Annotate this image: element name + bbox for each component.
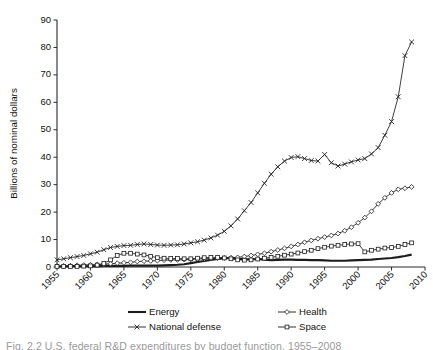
data-marker — [389, 119, 394, 124]
data-marker — [249, 253, 254, 258]
data-marker — [329, 160, 334, 165]
data-marker — [222, 229, 227, 234]
data-marker — [255, 252, 260, 257]
legend-item-energy[interactable]: Energy — [128, 306, 180, 317]
x-axis-tick-label: 1980 — [206, 269, 229, 292]
x-axis-tick-label: 1960 — [72, 269, 95, 292]
data-marker — [242, 208, 247, 213]
data-marker — [142, 253, 146, 257]
data-marker — [122, 251, 126, 255]
data-marker — [75, 265, 79, 269]
data-marker — [316, 247, 320, 251]
y-axis-tick-label: 50 — [40, 123, 51, 134]
data-marker — [202, 256, 206, 260]
x-axis-tick-label: 1970 — [139, 269, 162, 292]
x-axis-tick-label: 1985 — [239, 269, 262, 292]
data-marker — [336, 231, 341, 236]
data-marker — [249, 200, 254, 205]
data-marker — [350, 242, 354, 246]
data-marker — [249, 258, 253, 262]
data-marker — [376, 247, 380, 251]
data-marker — [282, 246, 287, 251]
data-marker — [129, 251, 133, 255]
data-marker — [369, 152, 374, 157]
legend-item-health[interactable]: Health — [278, 306, 327, 317]
legend-label: Energy — [149, 306, 180, 317]
data-marker — [410, 241, 414, 245]
data-marker — [276, 254, 280, 258]
data-marker — [169, 257, 173, 261]
y-axis-tick-label: 40 — [40, 151, 51, 162]
series-health — [55, 184, 414, 268]
data-marker — [343, 243, 347, 247]
data-marker — [255, 191, 260, 196]
data-marker — [62, 265, 66, 269]
data-marker — [135, 252, 139, 256]
data-marker — [302, 156, 307, 161]
data-marker — [68, 265, 72, 269]
data-marker — [283, 253, 287, 257]
data-marker — [296, 251, 300, 255]
data-marker — [115, 254, 119, 258]
legend-label: Health — [299, 306, 327, 317]
y-axis-title: Billions of nominal dollars — [8, 88, 19, 199]
chart-axes — [57, 20, 425, 267]
data-marker — [216, 255, 220, 259]
data-marker — [409, 40, 414, 45]
data-marker — [396, 187, 401, 192]
x-axis-tick-label: 1975 — [173, 269, 196, 292]
data-marker — [390, 246, 394, 250]
y-axis-tick-label: 0 — [46, 261, 51, 272]
data-marker — [356, 242, 360, 246]
data-marker — [229, 257, 233, 261]
data-marker — [208, 236, 213, 241]
figure-caption-text: Fig. 2.2 U.S. federal R&D expenditures b… — [6, 341, 426, 350]
data-marker — [263, 256, 267, 260]
y-axis-tick-label: 90 — [40, 14, 51, 25]
data-marker — [323, 245, 327, 249]
data-marker — [222, 256, 226, 260]
data-marker — [115, 261, 120, 266]
data-marker — [275, 164, 280, 169]
data-marker — [155, 256, 159, 260]
data-marker — [383, 246, 387, 250]
data-marker — [329, 233, 334, 238]
data-marker — [295, 242, 300, 247]
data-marker — [269, 249, 274, 254]
data-marker — [403, 243, 407, 247]
data-marker — [269, 172, 274, 177]
x-axis-tick-label: 2000 — [340, 269, 363, 292]
data-marker — [209, 255, 213, 259]
data-marker — [316, 236, 321, 241]
data-marker — [403, 186, 408, 191]
data-marker — [285, 325, 289, 329]
y-axis-tick-label: 80 — [40, 41, 51, 52]
legend-label: Space — [299, 321, 326, 332]
data-marker — [196, 256, 200, 260]
data-marker — [349, 225, 354, 230]
data-marker — [382, 133, 387, 138]
data-marker — [236, 258, 240, 262]
data-marker — [162, 256, 166, 260]
legend-item-space[interactable]: Space — [278, 321, 326, 332]
data-marker — [342, 162, 347, 167]
data-marker — [109, 258, 113, 262]
data-marker — [309, 238, 314, 243]
data-marker — [285, 310, 290, 315]
legend-item-national-defense[interactable]: National defense — [128, 321, 221, 332]
data-marker — [189, 257, 193, 261]
data-marker — [235, 217, 240, 222]
data-marker — [289, 244, 294, 249]
data-marker — [370, 248, 374, 252]
data-marker — [282, 159, 287, 164]
y-axis-tick-label: 10 — [40, 233, 51, 244]
chart-figure: 0102030405060708090Billions of nominal d… — [0, 0, 433, 350]
data-marker — [349, 159, 354, 164]
series-line — [57, 187, 412, 266]
x-axis-tick-label: 1990 — [273, 269, 296, 292]
data-marker — [149, 254, 153, 258]
data-marker — [303, 250, 307, 254]
series-line — [57, 42, 412, 260]
chart-legend: EnergyHealthNational defenseSpace — [128, 306, 327, 332]
x-axis-tick-label: 1995 — [306, 269, 329, 292]
